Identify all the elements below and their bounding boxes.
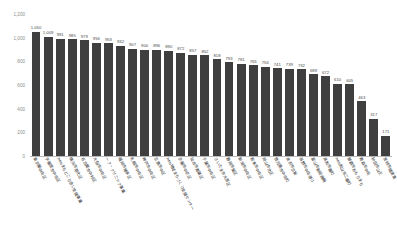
bar-rect[interactable]: [56, 39, 65, 156]
bar-item[interactable]: 818: [211, 14, 223, 156]
bar-item[interactable]: 732: [295, 14, 307, 156]
bar-item[interactable]: 1,009: [42, 14, 54, 156]
y-axis: 02004006008001,0001,200: [0, 14, 28, 156]
bar-rect[interactable]: [261, 67, 270, 156]
bar-item[interactable]: 689: [307, 14, 319, 156]
bar-rect[interactable]: [200, 55, 209, 156]
bar-rect[interactable]: [104, 43, 113, 156]
bar-rect[interactable]: [357, 101, 366, 156]
bar-item[interactable]: 900: [139, 14, 151, 156]
bar-value-label: 793: [226, 56, 233, 61]
bar-value-label: 907: [129, 42, 136, 47]
bar-item[interactable]: 463: [356, 14, 368, 156]
bar-item[interactable]: 781: [235, 14, 247, 156]
bar-rect[interactable]: [188, 55, 197, 156]
bar-item[interactable]: 907: [127, 14, 139, 156]
bar-item[interactable]: 872: [175, 14, 187, 156]
y-axis-tick: 400: [17, 106, 25, 111]
bar-rect[interactable]: [213, 59, 222, 156]
bar-item[interactable]: 953: [102, 14, 114, 156]
bar-item[interactable]: 317: [368, 14, 380, 156]
bar-rect[interactable]: [309, 74, 318, 156]
bar-item[interactable]: 741: [271, 14, 283, 156]
bar-value-label: 956: [93, 36, 100, 41]
y-axis-tick: 1,200: [14, 12, 26, 17]
bar-series: 1,0501,009991985979956953932907900896890…: [30, 14, 392, 156]
bar-value-label: 610: [334, 77, 341, 82]
bar-value-label: 317: [370, 112, 377, 117]
bar-value-label: 872: [177, 46, 184, 51]
bar-value-label: 1,050: [31, 25, 41, 30]
bar-rect[interactable]: [297, 69, 306, 156]
bar-value-label: 900: [141, 43, 148, 48]
bar-rect[interactable]: [92, 43, 101, 156]
bar-value-label: 1,009: [43, 30, 53, 35]
y-axis-tick: 600: [17, 83, 25, 88]
y-axis-tick: 0: [22, 154, 25, 159]
bar-rect[interactable]: [164, 51, 173, 156]
bar-value-label: 890: [165, 44, 172, 49]
bar-value-label: 463: [358, 95, 365, 100]
y-axis-tick: 800: [17, 59, 25, 64]
bar-item[interactable]: 739: [283, 14, 295, 156]
bar-rect[interactable]: [140, 50, 149, 157]
bar-value-label: 171: [382, 129, 389, 134]
bar-item[interactable]: 765: [247, 14, 259, 156]
bar-item[interactable]: 956: [90, 14, 102, 156]
bar-rect[interactable]: [32, 32, 41, 156]
bar-value-label: 765: [250, 59, 257, 64]
bar-value-label: 985: [69, 33, 76, 38]
bar-rect[interactable]: [68, 39, 77, 156]
bar-rect[interactable]: [345, 84, 354, 156]
bar-value-label: 896: [153, 43, 160, 48]
chart-title: [46, 1, 346, 10]
bar-rect[interactable]: [333, 84, 342, 156]
bar-rect[interactable]: [176, 53, 185, 156]
bar-item[interactable]: 1,050: [30, 14, 42, 156]
y-axis-tick: 200: [17, 130, 25, 135]
bar-value-label: 689: [310, 68, 317, 73]
bar-item[interactable]: 852: [199, 14, 211, 156]
bar-item[interactable]: 890: [163, 14, 175, 156]
bar-item[interactable]: 610: [332, 14, 344, 156]
y-axis-tick: 1,000: [14, 35, 26, 40]
bar-rect[interactable]: [128, 49, 137, 156]
bar-value-label: 953: [105, 37, 112, 42]
bar-value-label: 857: [189, 48, 196, 53]
bar-item[interactable]: 985: [66, 14, 78, 156]
bar-value-label: 932: [117, 39, 124, 44]
plot-area: 1,0501,009991985979956953932907900896890…: [30, 14, 392, 156]
bar-value-label: 605: [346, 78, 353, 83]
bar-rect[interactable]: [237, 64, 246, 156]
bar-rect[interactable]: [225, 62, 234, 156]
bar-item[interactable]: 793: [223, 14, 235, 156]
bar-rect[interactable]: [381, 136, 390, 156]
x-axis-tick-label: 岡山市北区: [261, 157, 274, 177]
bar-rect[interactable]: [285, 69, 294, 156]
bar-value-label: 756: [262, 60, 269, 65]
bar-value-label: 991: [57, 32, 64, 37]
bar-rect[interactable]: [321, 76, 330, 156]
bar-rect[interactable]: [80, 40, 89, 156]
bar-rect[interactable]: [369, 119, 378, 157]
bar-rect[interactable]: [44, 37, 53, 156]
bar-rect[interactable]: [152, 50, 161, 156]
bar-item[interactable]: 979: [78, 14, 90, 156]
bar-rect[interactable]: [116, 46, 125, 156]
bar-value-label: 741: [274, 62, 281, 67]
bar-rect[interactable]: [273, 68, 282, 156]
bar-item[interactable]: 991: [54, 14, 66, 156]
bar-item[interactable]: 605: [344, 14, 356, 156]
bar-item[interactable]: 857: [187, 14, 199, 156]
bar-item[interactable]: 171: [380, 14, 392, 156]
bar-value-label: 732: [298, 63, 305, 68]
bar-item[interactable]: 756: [259, 14, 271, 156]
bar-item[interactable]: 932: [114, 14, 126, 156]
bar-item[interactable]: 896: [151, 14, 163, 156]
bar-item[interactable]: 672: [320, 14, 332, 156]
bar-value-label: 781: [238, 57, 245, 62]
bar-value-label: 739: [286, 62, 293, 67]
x-axis-tick-label: 静岡市葵区: [225, 157, 238, 177]
bar-rect[interactable]: [249, 65, 258, 156]
